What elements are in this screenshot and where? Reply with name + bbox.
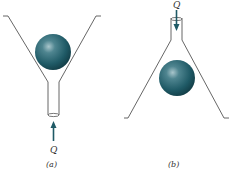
funnel-a-inlet-ellipse (48, 113, 59, 116)
sphere-a (35, 34, 71, 70)
flow-label-a: Q (50, 145, 58, 155)
flow-label-b: Q (173, 0, 181, 10)
flow-arrow-up-icon (51, 121, 57, 141)
caption-b: (b) (168, 160, 179, 169)
sphere-b (159, 60, 195, 96)
figure-canvas: Q (a) Q (b) (0, 0, 232, 172)
panel-b: Q (b) (124, 0, 229, 169)
panel-a: Q (a) (3, 16, 101, 169)
funnel-a-right-wall (59, 16, 101, 115)
caption-a: (a) (46, 160, 57, 169)
